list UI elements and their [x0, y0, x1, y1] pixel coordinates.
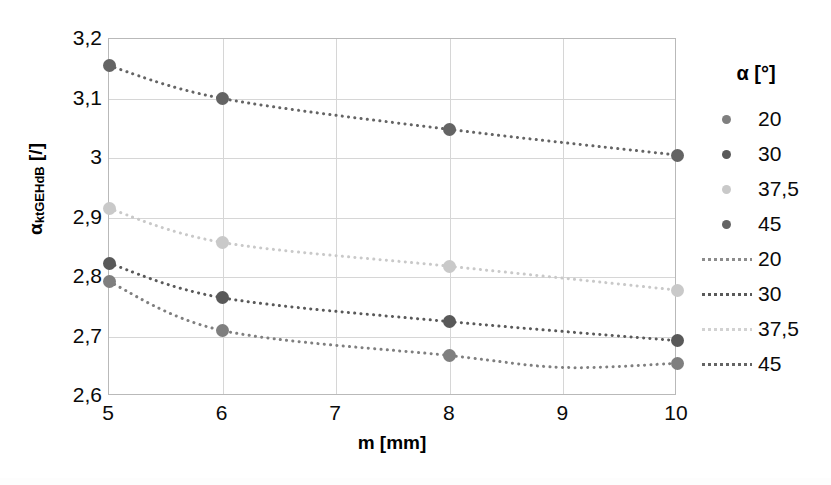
legend-item-label: 37,5 [752, 178, 799, 199]
scan-edge-artifact [0, 478, 831, 485]
trend-line-20 [109, 282, 677, 368]
y-axis-tick-label: 2,7 [40, 325, 102, 346]
legend-dotted-line-icon [702, 293, 752, 296]
trend-line-30 [109, 263, 677, 340]
chart-figure: 2,62,72,82,933,13,2 αktGEHdB [/] 5678910… [0, 0, 831, 485]
legend-dotted-line-icon [702, 363, 752, 366]
legend-item-marker-30[interactable]: 30 [700, 136, 828, 171]
x-axis-tick-label: 8 [429, 402, 469, 423]
data-point-marker [216, 236, 229, 249]
y-axis-tick-label: 2,9 [40, 206, 102, 227]
legend-marker-icon [722, 115, 731, 124]
legend-swatch-marker [700, 147, 752, 161]
legend-swatch-line [700, 287, 752, 301]
y-axis-title-unit: [/] [25, 143, 46, 166]
y-axis-tick-label: 3 [40, 146, 102, 167]
legend-item-label: 20 [752, 108, 781, 129]
legend-swatch-marker [700, 217, 752, 231]
legend-dotted-line-icon [702, 258, 752, 261]
y-axis-tick-label: 2,8 [40, 265, 102, 286]
plot-area [108, 38, 676, 395]
y-axis-title-base: α [25, 223, 46, 235]
legend-item-label: 45 [752, 213, 781, 234]
legend-item-label: 20 [752, 248, 781, 269]
trend-line-45 [109, 66, 677, 155]
legend-swatch-line [700, 357, 752, 371]
data-point-marker [443, 260, 456, 273]
x-axis-tick-label: 9 [542, 402, 582, 423]
legend-item-label: 45 [752, 353, 781, 374]
x-axis-tick-label: 7 [315, 402, 355, 423]
legend-swatch-marker [700, 182, 752, 196]
legend-item-line-20[interactable]: 20 [700, 241, 828, 276]
legend-item-label: 30 [752, 143, 781, 164]
data-point-marker [103, 275, 116, 288]
data-point-marker [671, 284, 684, 297]
legend-item-line-37-5[interactable]: 37,5 [700, 311, 828, 346]
legend-swatch-line [700, 322, 752, 336]
data-point-marker [671, 334, 684, 347]
legend-marker-icon [722, 150, 731, 159]
data-point-marker [216, 92, 229, 105]
data-point-marker [671, 149, 684, 162]
legend-entries: 203037,545203037,545 [700, 101, 828, 381]
legend-dotted-line-icon [702, 328, 752, 331]
y-axis-tick-label: 3,2 [40, 27, 102, 48]
data-point-marker [103, 202, 116, 215]
legend-item-label: 30 [752, 283, 781, 304]
legend-item-marker-37-5[interactable]: 37,5 [700, 171, 828, 206]
y-axis-tick-label: 3,1 [40, 87, 102, 108]
data-point-marker [103, 59, 116, 72]
legend-item-line-30[interactable]: 30 [700, 276, 828, 311]
x-axis-tick-label: 5 [88, 402, 128, 423]
legend-marker-icon [722, 220, 731, 229]
legend-swatch-line [700, 252, 752, 266]
legend-item-marker-20[interactable]: 20 [700, 101, 828, 136]
legend-swatch-marker [700, 112, 752, 126]
legend-item-line-45[interactable]: 45 [700, 346, 828, 381]
y-axis-title: αktGEHdB [/] [25, 69, 47, 309]
data-point-marker [671, 357, 684, 370]
legend-title: α [°] [702, 62, 810, 85]
x-axis-title: m [mm] [108, 432, 676, 454]
legend-item-label: 37,5 [752, 318, 799, 339]
trend-line-37-5 [109, 209, 677, 291]
x-axis-tick-label: 6 [202, 402, 242, 423]
data-point-marker [103, 257, 116, 270]
x-axis-tick-label: 10 [656, 402, 696, 423]
legend: α [°] 203037,545203037,545 [700, 62, 828, 381]
y-axis-title-subscript: ktGEHdB [32, 166, 47, 223]
legend-item-marker-45[interactable]: 45 [700, 206, 828, 241]
trend-curves [109, 39, 677, 396]
legend-marker-icon [722, 185, 731, 194]
